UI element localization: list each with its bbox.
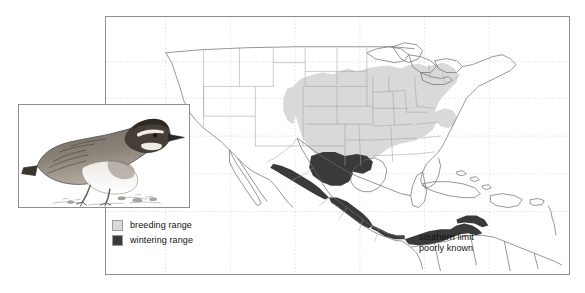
bird-bill <box>169 134 185 141</box>
breeding-range-label: breeding range <box>130 220 192 231</box>
bird-illustration-inset <box>18 104 190 208</box>
bird-tail <box>22 166 38 176</box>
bird-drawing <box>19 105 189 207</box>
legend-item-wintering-range: wintering range <box>112 234 232 247</box>
southern-limit-line-1: southern limit <box>419 232 474 243</box>
breeding-range-swatch <box>112 220 123 231</box>
southern-limit-annotation: southern limit poorly known <box>419 232 474 253</box>
bird-eye <box>153 133 157 137</box>
wintering-range-swatch <box>112 235 123 246</box>
map-legend: breeding range wintering range <box>112 219 232 249</box>
bird-feet <box>77 202 111 206</box>
southern-limit-line-2: poorly known <box>419 243 474 254</box>
wintering-range-label: wintering range <box>130 235 193 246</box>
breeding-range-fill <box>283 63 458 166</box>
legend-item-breeding-range: breeding range <box>112 219 232 232</box>
figure-canvas: breeding range wintering range southern … <box>0 0 585 293</box>
